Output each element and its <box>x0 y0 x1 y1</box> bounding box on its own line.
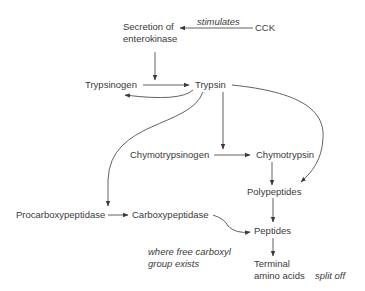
annotation-free-carboxyl: where free carboxyl group exists <box>148 246 231 270</box>
node-polypeptides: Polypeptides <box>247 186 301 198</box>
node-cck: CCK <box>255 22 275 34</box>
node-chymotrypsinogen: Chymotrypsinogen <box>130 149 209 161</box>
annotation-free-carboxyl-line1: where free carboxyl <box>148 246 231 258</box>
node-chymotrypsin: Chymotrypsin <box>256 149 314 161</box>
node-terminal-line1: Terminal <box>254 258 305 270</box>
node-terminal-line2: amino acids <box>254 270 305 282</box>
arrow-trypsin-autocatalysis <box>125 90 193 98</box>
node-trypsinogen: Trypsinogen <box>85 79 137 91</box>
node-trypsin: Trypsin <box>195 79 226 91</box>
digestive-enzyme-activation-diagram: Secretion of enterokinase stimulates CCK… <box>0 0 365 291</box>
arrow-carboxy-to-peptides <box>213 215 250 232</box>
annotation-split-off: split off <box>315 270 345 282</box>
node-peptides: Peptides <box>254 225 291 237</box>
node-secretion-line1: Secretion of <box>123 21 177 33</box>
annotation-stimulates: stimulates <box>197 16 240 28</box>
annotation-free-carboxyl-line2: group exists <box>148 258 231 270</box>
node-carboxypeptidase: Carboxypeptidase <box>132 209 209 221</box>
node-terminal-amino-acids: Terminal amino acids <box>254 258 305 282</box>
node-secretion-line2: enterokinase <box>123 33 177 45</box>
node-secretion: Secretion of enterokinase <box>123 21 177 45</box>
node-procarboxypeptidase: Procarboxypeptidase <box>16 209 105 221</box>
arrow-trypsin-to-polypeptides <box>232 85 323 182</box>
